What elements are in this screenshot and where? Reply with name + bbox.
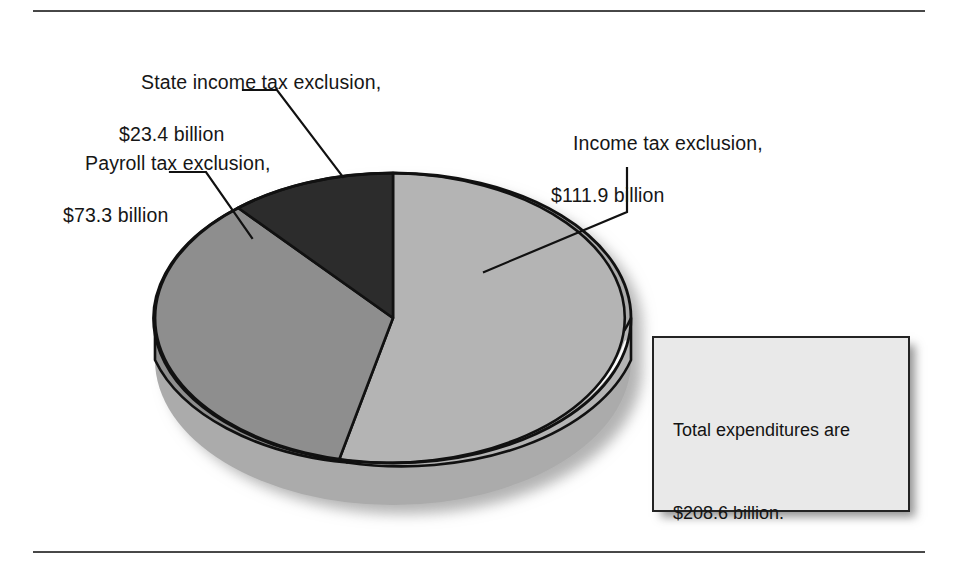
figure-container: State income tax exclusion, $23.4 billio… xyxy=(0,0,956,570)
total-expenditures-note-box: Total expenditures are $208.6 billion. B… xyxy=(652,336,910,512)
bottom-rule xyxy=(33,551,925,553)
info-box-line-1: Total expenditures are xyxy=(673,417,902,445)
callout-state-line1: State income tax exclusion, xyxy=(141,71,381,93)
callout-income-line1: Income tax exclusion, xyxy=(573,132,763,154)
callout-payroll-line2: $73.3 billion xyxy=(63,202,270,228)
callout-income-tax: Income tax exclusion, $111.9 billion xyxy=(551,104,763,260)
callout-payroll-line1: Payroll tax exclusion, xyxy=(85,152,270,174)
info-box-text: Total expenditures are $208.6 billion. B… xyxy=(673,362,902,570)
info-box-line-2: $208.6 billion. xyxy=(673,500,902,528)
callout-payroll-tax: Payroll tax exclusion, $73.3 billion xyxy=(63,124,270,280)
callout-income-line2: $111.9 billion xyxy=(551,182,763,208)
